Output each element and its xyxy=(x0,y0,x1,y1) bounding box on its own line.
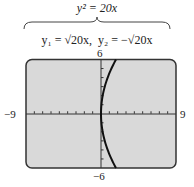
ymax-label: 6 xyxy=(97,48,103,59)
graphing-calculator-screen xyxy=(0,0,194,187)
xmax-label: 9 xyxy=(180,109,186,120)
xmin-label: −9 xyxy=(4,109,16,120)
ymin-label: −6 xyxy=(93,171,105,182)
